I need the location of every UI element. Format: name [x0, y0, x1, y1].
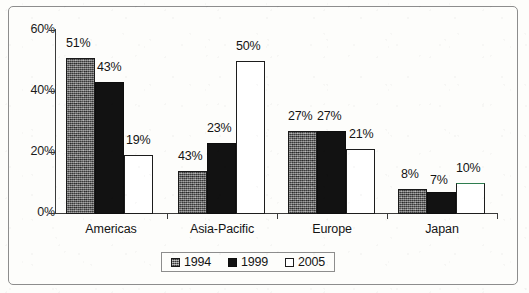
bar-japan-2005	[456, 183, 485, 214]
legend-swatch-icon-1994	[171, 258, 180, 267]
bar-asia-pacific-1994	[178, 171, 207, 214]
legend-item-1999: 1999	[228, 255, 268, 269]
y-axis-tick-label-20: 20%	[13, 144, 55, 158]
bar-label-japan-1999: 7%	[430, 173, 448, 187]
bar-asia-pacific-1999	[207, 143, 236, 214]
bar-chart-plot-area: 60% 40% 20% 0% 51% 43% 19% 43%	[0, 0, 529, 293]
y-axis-tick-label-60: 60%	[13, 22, 55, 36]
y-axis-tick-label-0: 0%	[13, 205, 55, 219]
legend-label-1994: 1994	[184, 255, 211, 269]
bar-europe-1999	[317, 131, 346, 214]
x-axis-group-separator	[387, 213, 388, 219]
bar-japan-1994	[398, 189, 427, 214]
y-axis-tick-mark-60	[49, 30, 55, 31]
bar-americas-2005	[124, 155, 153, 214]
x-axis-category-label-americas: Americas	[55, 222, 167, 236]
bar-label-japan-1994: 8%	[401, 167, 419, 181]
x-axis-group-separator	[167, 213, 168, 219]
x-axis-group-separator	[497, 213, 498, 219]
x-axis-group-separator	[277, 213, 278, 219]
bar-label-europe-2005: 21%	[349, 127, 373, 141]
x-axis-category-label-japan: Japan	[387, 222, 497, 236]
bar-americas-1999	[95, 82, 124, 214]
x-axis-category-label-asia-pacific: Asia-Pacific	[167, 222, 277, 236]
bar-label-europe-1994: 27%	[288, 109, 312, 123]
y-axis-tick-label-40: 40%	[13, 83, 55, 97]
bar-label-asia-pacific-2005: 50%	[236, 39, 260, 53]
bar-label-americas-2005: 19%	[126, 133, 150, 147]
bar-label-americas-1994: 51%	[66, 36, 90, 50]
x-axis-category-label-europe: Europe	[277, 222, 387, 236]
bar-label-japan-2005: 10%	[456, 161, 480, 175]
bar-label-asia-pacific-1994: 43%	[178, 149, 202, 163]
legend-item-2005: 2005	[285, 255, 325, 269]
chart-legend: 1994 1999 2005	[161, 252, 335, 272]
y-axis-tick-mark-0	[49, 213, 55, 214]
bar-japan-1999	[427, 192, 456, 214]
legend-label-2005: 2005	[298, 255, 325, 269]
bar-americas-1994	[66, 58, 95, 214]
bar-europe-2005	[346, 149, 375, 214]
bar-label-americas-1999: 43%	[97, 60, 121, 74]
scanned-page-background: 60% 40% 20% 0% 51% 43% 19% 43%	[0, 0, 529, 293]
y-axis-tick-mark-40	[49, 91, 55, 92]
bar-label-europe-1999: 27%	[317, 109, 341, 123]
legend-item-1994: 1994	[171, 255, 211, 269]
bar-asia-pacific-2005	[236, 61, 265, 214]
legend-label-1999: 1999	[241, 255, 268, 269]
legend-swatch-icon-2005	[285, 258, 294, 267]
legend-swatch-icon-1999	[228, 258, 237, 267]
bar-europe-1994	[288, 131, 317, 214]
y-axis-tick-mark-20	[49, 152, 55, 153]
bar-label-asia-pacific-1999: 23%	[207, 121, 231, 135]
y-axis-line	[55, 29, 56, 214]
